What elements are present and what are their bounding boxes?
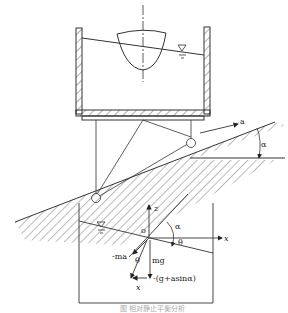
accel-label: a [240,117,245,126]
alpha-label: α [175,222,181,231]
theta-label: θ [178,238,183,247]
theta2-label: θ [135,256,140,265]
neg-ma-label: -ma [112,252,127,261]
inclined-slope [15,122,285,245]
tank-bottom [76,110,210,116]
mg-label: mg [152,256,165,265]
tank-right-wall [204,27,210,114]
acceleration-arrow [200,124,238,133]
platform [82,116,204,120]
x-axis-label: x [224,234,229,243]
slope-angle-label: α [261,140,267,149]
figure-caption: 图 相对静止平衡分析 [120,304,185,313]
tank-left-wall [76,28,82,114]
z-axis-label: z [153,204,159,213]
x-vector-label: x [136,283,141,292]
wheel-right [187,139,196,148]
diagram-canvas: a α z x o -ma α θ mg θ -(g+asinα) x 图 相对… [0,0,288,313]
origin-label: o [141,226,146,235]
paraboloid-shape [117,30,166,70]
resultant-label: -(g+asinα) [153,274,196,283]
